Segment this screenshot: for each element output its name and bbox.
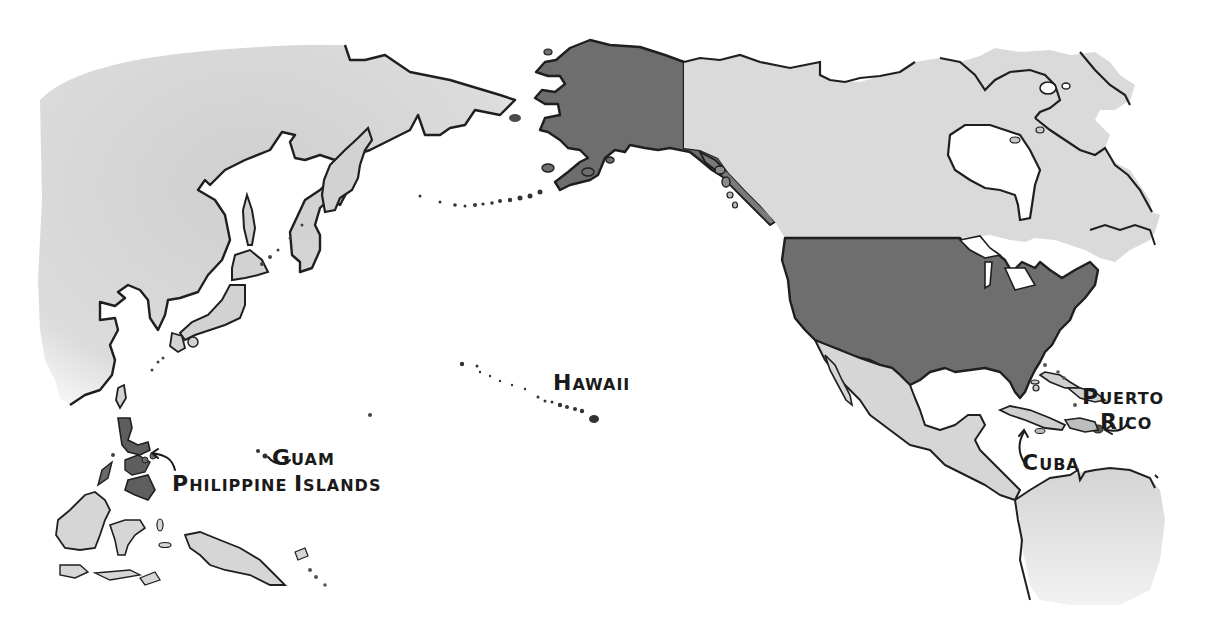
asia-landmass [38, 45, 515, 405]
aleutian-islands [419, 190, 543, 208]
label-guam: GUAM [272, 447, 335, 469]
philippine-islands [98, 418, 156, 500]
label-rico: RICO [1100, 411, 1152, 433]
pacific-island-dot [368, 413, 372, 417]
label-puerto: PUERTO [1082, 386, 1164, 408]
label-philippine-islands: PHILIPPINE ISLANDS [172, 473, 381, 495]
cuba [1000, 406, 1065, 434]
guam-marker [256, 449, 268, 459]
pacific-map [0, 0, 1214, 632]
indonesia-new-guinea [56, 492, 327, 587]
label-cuba: CUBA [1022, 452, 1080, 474]
puerto-rico [1065, 418, 1098, 432]
canada [684, 48, 1160, 262]
label-hawaii: HAWAII [553, 372, 630, 394]
south-america [1015, 468, 1165, 605]
